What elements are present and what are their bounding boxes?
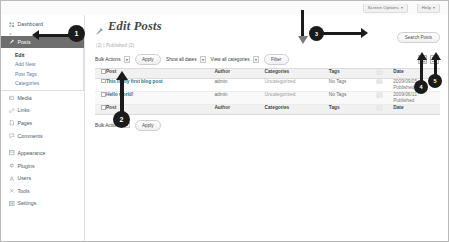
sidebar-item-plugins[interactable]: Plugins bbox=[1, 159, 84, 172]
chevron-down-icon bbox=[124, 122, 130, 129]
table-bottom-nav: Bulk Actions Apply bbox=[95, 120, 440, 131]
column-comments[interactable] bbox=[376, 69, 394, 79]
table-head: Post Author Categories Tags Date bbox=[95, 69, 440, 79]
post-categories[interactable]: Uncategorized bbox=[264, 78, 328, 91]
sidebar-item-settings[interactable]: Settings bbox=[1, 197, 84, 210]
post-categories[interactable]: Uncategorized bbox=[264, 91, 328, 104]
table-row[interactable]: Hello world! admin Uncategorized No Tags… bbox=[95, 91, 440, 104]
row-checkbox[interactable] bbox=[101, 92, 106, 97]
settings-icon bbox=[9, 201, 15, 207]
post-comment-count[interactable] bbox=[376, 78, 394, 91]
chevron-down-icon bbox=[433, 7, 435, 9]
bulk-actions-label-bottom: Bulk Actions bbox=[95, 123, 121, 128]
column-categories-footer[interactable]: Categories bbox=[264, 105, 328, 115]
comments-icon bbox=[376, 105, 383, 111]
chevron-down-icon bbox=[200, 56, 206, 63]
link-icon bbox=[9, 108, 15, 114]
pin-icon bbox=[9, 39, 15, 45]
table-body: This is my first blog post admin Uncateg… bbox=[95, 78, 440, 105]
post-status: Published bbox=[393, 85, 414, 90]
column-author[interactable]: Author bbox=[214, 69, 264, 79]
bulk-actions-select-top[interactable]: Bulk Actions bbox=[95, 56, 130, 63]
comment-bubble-icon bbox=[376, 79, 383, 85]
apply-button-bottom[interactable]: Apply bbox=[135, 120, 162, 131]
wordpress-admin-screen: Screen Options Help Dashboard ◂ Posts Ed… bbox=[0, 0, 449, 242]
post-comment-count[interactable] bbox=[376, 91, 394, 104]
post-title-link[interactable]: Hello world! bbox=[106, 92, 133, 97]
sidebar-item-label: Media bbox=[18, 95, 32, 101]
plugin-icon bbox=[9, 163, 15, 169]
chevron-down-icon bbox=[124, 56, 130, 63]
submenu-item-post-tags[interactable]: Post Tags bbox=[1, 69, 83, 78]
post-tags: No Tags bbox=[329, 78, 376, 91]
column-comments-footer[interactable] bbox=[376, 105, 394, 115]
select-all-header bbox=[95, 69, 106, 79]
sidebar-item-comments[interactable]: Comments bbox=[1, 129, 84, 142]
bulk-actions-label: Bulk Actions bbox=[95, 57, 121, 62]
post-author[interactable]: admin bbox=[214, 78, 264, 91]
comment-icon bbox=[9, 133, 15, 139]
page-header: Edit Posts bbox=[95, 20, 440, 40]
sidebar-item-posts[interactable]: Posts bbox=[1, 36, 84, 49]
row-checkbox[interactable] bbox=[101, 79, 106, 84]
sidebar-item-appearance[interactable]: Appearance bbox=[1, 147, 84, 160]
category-filter-select[interactable]: View all categories bbox=[211, 56, 259, 63]
screen-options-tab[interactable]: Screen Options bbox=[363, 4, 408, 13]
column-tags-footer[interactable]: Tags bbox=[329, 105, 376, 115]
dashboard-icon bbox=[9, 22, 15, 28]
post-title-cell: Hello world! bbox=[106, 91, 214, 104]
sidebar-item-label: Links bbox=[18, 107, 30, 113]
post-author[interactable]: admin bbox=[214, 91, 264, 104]
submenu-item-edit[interactable]: Edit bbox=[1, 51, 83, 60]
chevron-down-icon bbox=[401, 7, 403, 9]
table-filter-bar: Bulk Actions Apply Show all dates View a… bbox=[95, 54, 440, 65]
column-date-footer[interactable]: Date bbox=[393, 105, 440, 115]
row-checkbox-cell bbox=[95, 91, 106, 104]
posts-submenu: Edit Add New Post Tags Categories bbox=[1, 48, 84, 91]
post-date: 2009/09/05 bbox=[393, 79, 417, 84]
help-tab[interactable]: Help bbox=[417, 4, 440, 13]
sidebar-item-dashboard[interactable]: Dashboard bbox=[1, 18, 84, 31]
admin-bar: Screen Options Help bbox=[1, 1, 448, 15]
page-icon bbox=[9, 120, 15, 126]
posts-table: Post Author Categories Tags Date Th bbox=[95, 68, 440, 115]
column-date[interactable]: Date bbox=[393, 69, 440, 79]
page-title: Edit Posts bbox=[108, 20, 162, 33]
sidebar-item-pages[interactable]: Pages bbox=[1, 117, 84, 130]
sidebar-item-users[interactable]: Users bbox=[1, 172, 84, 185]
post-date: 2009/06/11 bbox=[393, 92, 417, 97]
column-author-footer[interactable]: Author bbox=[214, 105, 264, 115]
sidebar-item-links[interactable]: Links bbox=[1, 104, 84, 117]
post-status: Published bbox=[393, 98, 414, 103]
comments-icon bbox=[376, 69, 383, 75]
submenu-item-add-new[interactable]: Add New bbox=[1, 60, 83, 69]
post-title-cell: This is my first blog post bbox=[106, 78, 214, 91]
date-filter-select[interactable]: Show all dates bbox=[166, 56, 206, 63]
appearance-icon bbox=[9, 150, 15, 156]
help-label: Help bbox=[422, 5, 431, 10]
sidebar-item-label: Settings bbox=[18, 200, 37, 206]
search-posts-button[interactable]: Search Posts bbox=[397, 32, 440, 43]
users-icon bbox=[9, 176, 15, 182]
sidebar-item-label: Comments bbox=[18, 133, 43, 139]
table-row[interactable]: This is my first blog post admin Uncateg… bbox=[95, 78, 440, 91]
list-view-icon[interactable] bbox=[418, 55, 427, 64]
main-content: Edit Posts (2) | Published (2) Search Po… bbox=[85, 15, 448, 241]
table-footer-row: Post Author Categories Tags Date bbox=[95, 105, 440, 115]
select-all-checkbox-bottom[interactable] bbox=[101, 105, 106, 110]
filter-button[interactable]: Filter bbox=[264, 54, 289, 65]
post-title-link[interactable]: This is my first blog post bbox=[106, 79, 163, 84]
sidebar-item-tools[interactable]: Tools bbox=[1, 185, 84, 198]
apply-button-top[interactable]: Apply bbox=[135, 54, 162, 65]
pin-icon bbox=[95, 22, 104, 40]
sidebar-item-media[interactable]: Media bbox=[1, 91, 84, 104]
sidebar-item-label: Tools bbox=[18, 188, 30, 194]
column-categories[interactable]: Categories bbox=[264, 69, 328, 79]
column-tags[interactable]: Tags bbox=[329, 69, 376, 79]
bulk-actions-select-bottom[interactable]: Bulk Actions bbox=[95, 122, 130, 129]
column-post-footer[interactable]: Post bbox=[106, 105, 214, 115]
column-post[interactable]: Post bbox=[106, 69, 214, 79]
excerpt-view-icon[interactable] bbox=[430, 55, 439, 64]
select-all-checkbox[interactable] bbox=[101, 69, 106, 74]
submenu-item-categories[interactable]: Categories bbox=[1, 78, 83, 87]
